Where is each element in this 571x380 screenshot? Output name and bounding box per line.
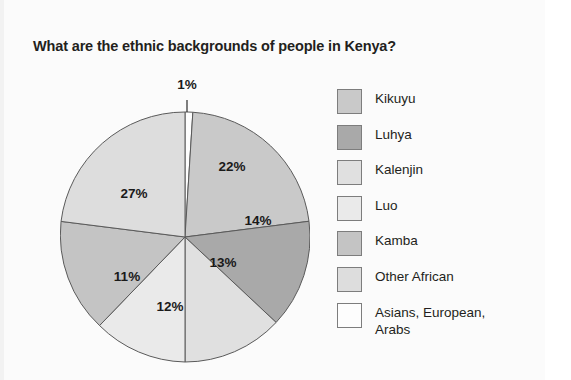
legend-item-other-african[interactable]: Other African	[337, 266, 537, 302]
legend-swatch-kikuyu	[337, 89, 362, 114]
legend-item-asians-european-arabs[interactable]: Asians, European, Arabs	[337, 302, 537, 338]
legend-label-asians-european-arabs: Asians, European, Arabs	[375, 302, 485, 339]
legend-swatch-luhya	[337, 125, 362, 150]
pie-label-other-african: 27%	[120, 186, 147, 201]
pie-label-asians-european-arabs: 1%	[177, 77, 197, 92]
chart-page: What are the ethnic backgrounds of peopl…	[0, 0, 571, 380]
legend-item-kalenjin[interactable]: Kalenjin	[337, 159, 537, 195]
legend-swatch-other-african	[337, 267, 362, 292]
legend-item-luo[interactable]: Luo	[337, 195, 537, 231]
legend-item-kikuyu[interactable]: Kikuyu	[337, 88, 537, 124]
pie-callout-layer: 1%	[60, 72, 310, 102]
legend-label-kalenjin: Kalenjin	[375, 159, 423, 179]
pie-chart: 22% 14% 13% 12% 11% 27% 1%	[60, 100, 310, 366]
legend-label-other-african: Other African	[375, 266, 454, 286]
legend-label-kikuyu: Kikuyu	[375, 88, 416, 108]
legend-label-luo: Luo	[375, 195, 398, 215]
legend-swatch-luo	[337, 196, 362, 221]
legend-swatch-kamba	[337, 231, 362, 256]
legend-label-luhya: Luhya	[375, 124, 412, 144]
pie-label-luhya: 14%	[244, 213, 271, 228]
legend-swatch-asians-european-arabs	[337, 303, 362, 328]
legend-swatch-kalenjin	[337, 160, 362, 185]
pie-label-kikuyu: 22%	[218, 159, 245, 174]
legend-label-kamba: Kamba	[375, 230, 418, 250]
pie-label-luo: 12%	[156, 299, 183, 314]
legend-item-kamba[interactable]: Kamba	[337, 230, 537, 266]
pie-chart-svg: 22% 14% 13% 12% 11% 27%	[60, 100, 310, 366]
legend: Kikuyu Luhya Kalenjin Luo Kamba Other Af…	[337, 88, 537, 337]
pie-label-kamba: 11%	[114, 269, 140, 284]
page-title: What are the ethnic backgrounds of peopl…	[33, 38, 396, 54]
pie-slice-other-african	[61, 112, 185, 237]
legend-item-luhya[interactable]: Luhya	[337, 124, 537, 160]
pie-label-kalenjin: 13%	[209, 255, 236, 270]
